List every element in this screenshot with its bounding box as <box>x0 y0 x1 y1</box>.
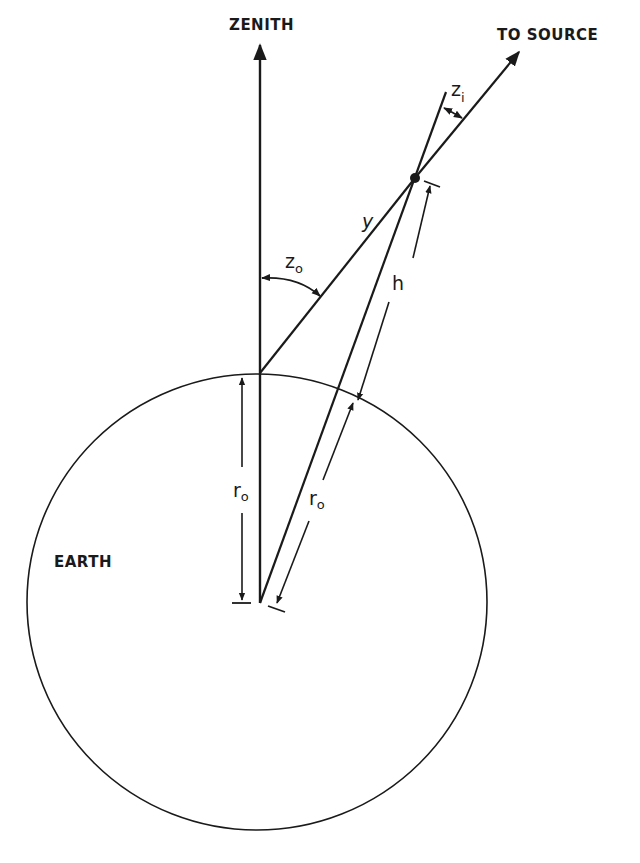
radial-line <box>260 92 446 603</box>
y-label: y <box>361 210 374 232</box>
r-o-vertical-sub: o <box>241 489 249 504</box>
r-o-slant-base: r <box>309 487 317 509</box>
to-source-ray <box>415 52 519 178</box>
zenith-label: ZENITH <box>229 16 294 34</box>
h-dim-end-bar <box>424 181 440 187</box>
r-o-slant-sub: o <box>317 497 325 512</box>
z-o-label: zo <box>285 250 303 276</box>
earth-label: EARTH <box>54 553 112 571</box>
earth-circle <box>27 374 487 830</box>
zenith-angle-diagram: ZENITH TO SOURCE EARTH y h zo zi ro ro <box>0 0 640 863</box>
to-source-label: TO SOURCE <box>497 26 598 44</box>
z-i-label: zi <box>451 78 465 105</box>
r-o-slant-label: ro <box>309 487 325 512</box>
z-i-angle-arc <box>444 108 462 118</box>
z-i-base: z <box>451 78 461 100</box>
h-label: h <box>392 272 404 294</box>
r-o-vertical-label: ro <box>233 479 249 504</box>
r-o-vertical-base: r <box>233 479 241 501</box>
z-i-sub: i <box>461 90 465 105</box>
z-o-base: z <box>285 250 295 272</box>
z-o-sub: o <box>295 261 303 276</box>
r-o-slant-dim-lower <box>277 521 309 603</box>
h-dim-upper <box>413 186 430 258</box>
r-o-slant-end-bar <box>268 606 285 612</box>
h-dim-lower <box>358 302 389 400</box>
pierce-point <box>410 173 420 183</box>
z-o-angle-arc <box>262 278 320 296</box>
